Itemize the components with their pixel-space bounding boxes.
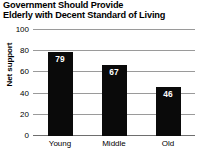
bars-layer: 79Young67Middle46Old xyxy=(33,30,195,136)
y-tick-label-40: 40 xyxy=(20,88,29,97)
y-tick-label-60: 60 xyxy=(20,67,29,76)
bar-value-label: 46 xyxy=(156,90,181,98)
x-category-label: Old xyxy=(144,139,193,148)
bar-group: 67Middle xyxy=(102,30,127,136)
bar-value-label: 67 xyxy=(102,68,127,76)
chart-title-line-1: Government Should Provide xyxy=(3,0,196,10)
chart-title: Government Should Provide Elderly with D… xyxy=(3,0,196,21)
plot-area: 020406080100 79Young67Middle46Old xyxy=(33,30,195,136)
x-category-label: Middle xyxy=(90,139,139,148)
y-tick-label-20: 20 xyxy=(20,109,29,118)
bar: 46 xyxy=(156,87,181,136)
y-tick-label-100: 100 xyxy=(16,25,29,34)
y-tick-label-80: 80 xyxy=(20,46,29,55)
y-tick-label-0: 0 xyxy=(25,131,29,140)
bar: 67 xyxy=(102,65,127,136)
x-category-label: Young xyxy=(36,139,85,148)
bar-group: 79Young xyxy=(48,30,73,136)
y-axis-title: Net support xyxy=(5,30,14,100)
chart-title-line-2: Elderly with Decent Standard of Living xyxy=(3,10,196,20)
bar-value-label: 79 xyxy=(48,55,73,63)
bar-chart-figure: Government Should Provide Elderly with D… xyxy=(0,0,199,159)
bar-group: 46Old xyxy=(156,30,181,136)
bar: 79 xyxy=(48,52,73,136)
